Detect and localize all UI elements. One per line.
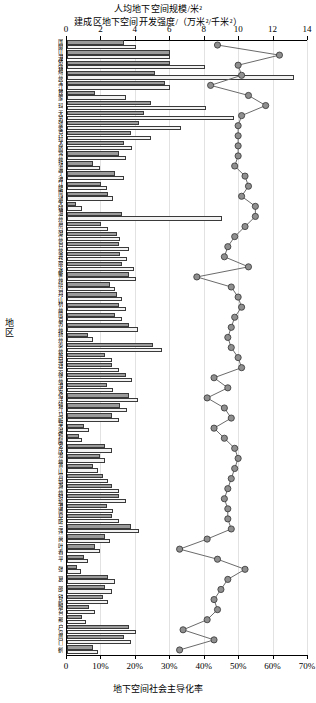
marker-social-dominance-rate [221, 254, 227, 260]
marker-social-dominance-rate [232, 465, 238, 471]
marker-social-dominance-rate [211, 425, 217, 431]
marker-social-dominance-rate [214, 607, 220, 613]
top-tick-label: 4 [120, 24, 150, 34]
marker-social-dominance-rate [228, 344, 234, 350]
bottom-tick-label: 40% [189, 661, 219, 671]
bottom-tick [307, 655, 308, 659]
marker-social-dominance-rate [204, 617, 210, 623]
y-category-label: 叶春 [57, 543, 63, 554]
marker-social-dominance-rate [242, 173, 248, 179]
marker-social-dominance-rate [238, 193, 244, 199]
marker-social-dominance-rate [238, 304, 244, 310]
marker-social-dominance-rate [245, 183, 251, 189]
marker-social-dominance-rate [211, 637, 217, 643]
y-category-label: 三连 [57, 523, 63, 534]
marker-social-dominance-rate [221, 496, 227, 502]
y-category-label: 那 [57, 617, 63, 623]
marker-social-dominance-rate [252, 213, 258, 219]
gridline [307, 40, 308, 655]
y-category-label: 烟台 [57, 604, 63, 615]
marker-social-dominance-rate [242, 566, 248, 572]
marker-social-dominance-rate [218, 586, 224, 592]
marker-social-dominance-rate [235, 133, 241, 139]
bottom-tick-label: 60% [258, 661, 288, 671]
bottom-tick [66, 655, 67, 659]
marker-social-dominance-rate [214, 556, 220, 562]
marker-social-dominance-rate [232, 314, 238, 320]
marker-social-dominance-rate [235, 123, 241, 129]
top-tick-label: 0 [51, 24, 81, 34]
marker-social-dominance-rate [225, 385, 231, 391]
marker-social-dominance-rate [225, 486, 231, 492]
bottom-tick-label: 50% [223, 661, 253, 671]
top-tick-label: 10 [223, 24, 253, 34]
marker-social-dominance-rate [235, 62, 241, 68]
y-category-label: 昆家 [57, 90, 63, 101]
marker-social-dominance-rate [228, 284, 234, 290]
marker-social-dominance-rate [235, 153, 241, 159]
marker-social-dominance-rate [238, 72, 244, 78]
top-tick-label: 6 [154, 24, 184, 34]
marker-social-dominance-rate [245, 92, 251, 98]
y-category-label: 玛 [57, 103, 63, 109]
marker-social-dominance-rate [276, 52, 282, 58]
marker-social-dominance-rate [225, 244, 231, 250]
top-tick [307, 36, 308, 40]
marker-social-dominance-rate [177, 647, 183, 653]
marker-social-dominance-rate [208, 82, 214, 88]
bottom-tick [169, 655, 170, 659]
bottom-tick [204, 655, 205, 659]
marker-social-dominance-rate [235, 354, 241, 360]
marker-social-dominance-rate [228, 475, 234, 481]
marker-social-dominance-rate [263, 102, 269, 108]
marker-social-dominance-rate [221, 435, 227, 441]
chart-root: 人均地下空间规模/米² 建成区地下空间开发强度/（万米²/千米²） 地区 024… [0, 0, 316, 703]
marker-social-dominance-rate [211, 596, 217, 602]
bottom-tick [135, 655, 136, 659]
marker-social-dominance-rate [225, 334, 231, 340]
top-tick-label: 8 [189, 24, 219, 34]
bottom-tick-label: 70% [292, 661, 316, 671]
marker-social-dominance-rate [235, 455, 241, 461]
marker-social-dominance-rate [221, 405, 227, 411]
marker-social-dominance-rate [238, 365, 244, 371]
marker-social-dominance-rate [232, 163, 238, 169]
y-category-label: 葛 [57, 577, 63, 583]
marker-social-dominance-rate [228, 415, 234, 421]
marker-social-dominance-rate [242, 223, 248, 229]
line-series-layer [66, 40, 307, 655]
y-category-label: 平 [57, 556, 63, 562]
bottom-tick-label: 10% [85, 661, 115, 671]
marker-social-dominance-rate [225, 516, 231, 522]
marker-social-dominance-rate [238, 113, 244, 119]
x-axis-label-bottom: 地下空间社会主导化率 [0, 682, 316, 695]
y-category-label: 鹤 [57, 647, 63, 653]
bottom-tick-label: 0 [51, 661, 81, 671]
top-tick-label: 2 [85, 24, 115, 34]
bottom-axis-line [66, 655, 307, 656]
marker-social-dominance-rate [232, 234, 238, 240]
chart-title-line1: 人均地下空间规模/米² [0, 2, 316, 15]
marker-social-dominance-rate [204, 395, 210, 401]
bottom-tick [273, 655, 274, 659]
marker-social-dominance-rate [194, 274, 200, 280]
marker-social-dominance-rate [180, 627, 186, 633]
bottom-tick [238, 655, 239, 659]
top-tick-label: 14 [292, 24, 316, 34]
marker-social-dominance-rate [228, 526, 234, 532]
marker-social-dominance-rate [235, 294, 241, 300]
top-tick-label: 12 [258, 24, 288, 34]
marker-social-dominance-rate [177, 546, 183, 552]
marker-social-dominance-rate [232, 445, 238, 451]
marker-social-dominance-rate [225, 506, 231, 512]
y-category-label: 邵 [57, 587, 63, 593]
marker-social-dominance-rate [245, 264, 251, 270]
y-category-label: 张 [57, 566, 63, 572]
marker-social-dominance-rate [228, 324, 234, 330]
marker-social-dominance-rate [211, 375, 217, 381]
y-category-label: 周口 [57, 634, 63, 645]
marker-social-dominance-rate [252, 203, 258, 209]
bottom-tick [100, 655, 101, 659]
bottom-tick-label: 30% [154, 661, 184, 671]
marker-social-dominance-rate [204, 536, 210, 542]
